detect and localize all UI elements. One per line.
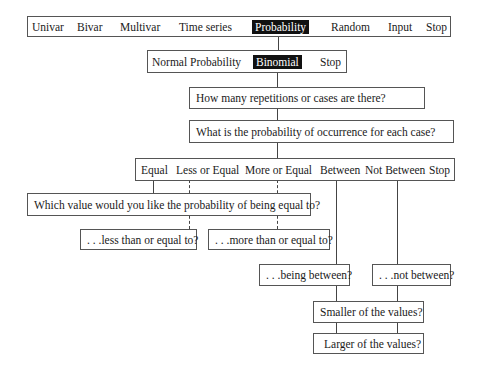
connector-smaller-to-larger-left [336, 322, 337, 333]
menu-item-between[interactable]: Between [320, 159, 360, 180]
menu-item-equal[interactable]: Equal [141, 159, 168, 180]
menu-item-input[interactable]: Input [388, 17, 412, 36]
prompt-probability-per-case: What is the probability of occurrence fo… [189, 120, 454, 143]
prompt-not-between-value: . . .not between? [372, 264, 451, 286]
menu-item-binomial[interactable]: Binomial [253, 51, 302, 72]
prompt-between-value: . . .being between? [259, 264, 350, 286]
connector-equal [153, 180, 154, 193]
connector-smaller-to-larger-right [397, 322, 398, 333]
menu-item-random[interactable]: Random [331, 17, 370, 36]
menu-item-bivar[interactable]: Bivar [77, 17, 103, 36]
connector-probability-to-options [277, 142, 278, 158]
connector-repetitions-to-probability [277, 108, 278, 120]
menu-item-probability[interactable]: Probability [252, 17, 309, 36]
menu-item-not-between[interactable]: Not Between [365, 159, 425, 180]
prompt-larger-value: Larger of the values? [313, 333, 424, 354]
connector-binomial-to-repetitions [277, 72, 278, 87]
prompt-less-equal-value: . . .less than or equal to? [80, 229, 197, 250]
prompt-more-equal-value: . . .more than or equal to? [208, 229, 330, 250]
prompt-repetitions: How many repetitions or cases are there? [189, 87, 425, 109]
menu-item-normal-probability[interactable]: Normal Probability [152, 51, 241, 72]
probability-submenu-bar: Normal Probability Binomial Stop [147, 50, 347, 73]
prompt-equal-value: Which value would you like the probabili… [27, 193, 311, 216]
connector-probability-to-submenu [278, 36, 279, 50]
main-menu-bar: Univar Bivar Multivar Time series Probab… [27, 16, 451, 37]
menu-item-comparison-stop[interactable]: Stop [429, 159, 450, 180]
menu-item-time-series[interactable]: Time series [179, 17, 232, 36]
prompt-smaller-value: Smaller of the values? [313, 301, 424, 323]
menu-item-more-or-equal[interactable]: More or Equal [245, 159, 312, 180]
menu-item-univar[interactable]: Univar [32, 17, 64, 36]
comparison-menu-bar: Equal Less or Equal More or Equal Betwee… [135, 158, 455, 181]
menu-item-stop[interactable]: Stop [426, 17, 447, 36]
menu-item-less-or-equal[interactable]: Less or Equal [176, 159, 239, 180]
menu-item-multivar[interactable]: Multivar [120, 17, 160, 36]
menu-item-submenu-stop[interactable]: Stop [320, 51, 341, 72]
